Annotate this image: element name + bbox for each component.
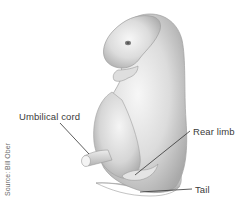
umbilical-cord-leader-line bbox=[60, 123, 89, 154]
embryo-illustration bbox=[0, 0, 250, 209]
rear-limb-label: Rear limb bbox=[193, 126, 235, 137]
figure: Umbilical cord Rear limb Tail Source: Bi… bbox=[0, 0, 250, 209]
source-credit: Source: Bill Ober bbox=[4, 143, 11, 196]
tail-label: Tail bbox=[195, 184, 210, 195]
umbilical-cord-label: Umbilical cord bbox=[19, 111, 80, 122]
